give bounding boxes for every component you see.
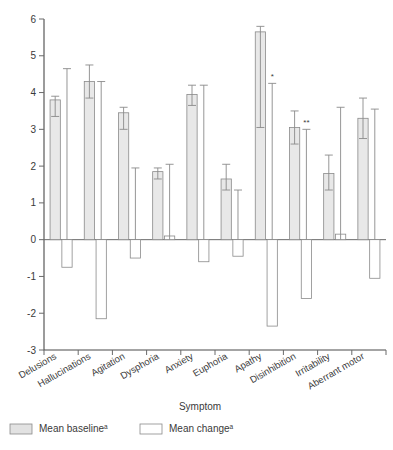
bar-change-delusions (62, 240, 72, 268)
legend-swatch-mean-change (140, 424, 162, 434)
errorbar-change-agitation (131, 168, 139, 240)
chart-figure: 6543210-1-2-3***DelusionsHallucinationsA… (0, 0, 393, 450)
errorbar-change-hallucinations (97, 82, 105, 240)
bar-baseline-dysphoria (153, 172, 163, 240)
x-category-label-group-5: Euphoria (191, 350, 230, 379)
errorbar-change-anxiety (200, 85, 208, 239)
y-tick-label--2: -2 (27, 308, 36, 319)
errorbar-change-delusions (63, 69, 71, 240)
bar-change-euphoria (233, 240, 243, 257)
legend-swatch-mean-baseline (10, 424, 32, 434)
y-tick-label-4: 4 (30, 87, 36, 98)
y-tick-label-2: 2 (30, 161, 36, 172)
legend-superscript-1: a (230, 423, 234, 430)
errorbar-change-apathy (268, 83, 276, 239)
bar-baseline-agitation (118, 113, 128, 240)
bar-baseline-delusions (50, 100, 60, 240)
bar-change-disinhibition (301, 240, 311, 299)
errorbar-change-euphoria (234, 190, 242, 240)
errorbar-change-disinhibition (302, 129, 310, 239)
significance-marker-disinhibition: ** (303, 118, 309, 127)
x-category-label-euphoria: Euphoria (191, 350, 230, 379)
errorbar-change-irritability (337, 107, 345, 239)
errorbar-change-aberrant-motor (371, 109, 379, 240)
axis-lines (44, 19, 386, 350)
legend-superscript-0: a (104, 423, 108, 430)
y-tick-label-0: 0 (30, 234, 36, 245)
x-category-label-dysphoria: Dysphoria (118, 350, 161, 381)
significance-marker-apathy: * (271, 72, 274, 81)
bar-baseline-anxiety (187, 94, 197, 239)
legend-label-mean-change: Mean changea (169, 423, 234, 434)
bar-change-apathy (267, 240, 277, 326)
x-category-label-group-3: Dysphoria (118, 350, 161, 381)
x-category-label-anxiety: Anxiety (162, 350, 195, 375)
y-tick-label-5: 5 (30, 50, 36, 61)
bar-baseline-hallucinations (84, 82, 94, 240)
x-category-label-group-4: Anxiety (162, 350, 195, 375)
bar-change-agitation (130, 240, 140, 258)
y-tick-label-1: 1 (30, 197, 36, 208)
legend-label-mean-baseline: Mean baselinea (39, 423, 108, 434)
bar-change-aberrant-motor (370, 240, 380, 279)
y-tick-label-3: 3 (30, 124, 36, 135)
bar-change-anxiety (199, 240, 209, 262)
y-tick-label--1: -1 (27, 271, 36, 282)
errorbar-change-dysphoria (166, 164, 174, 239)
ncs-symptom-bar-chart: 6543210-1-2-3***DelusionsHallucinationsA… (0, 0, 393, 450)
y-tick-label-6: 6 (30, 14, 36, 25)
bar-change-hallucinations (96, 240, 106, 319)
x-axis-title: Symptom (179, 401, 221, 412)
y-tick-label--3: -3 (27, 345, 36, 356)
